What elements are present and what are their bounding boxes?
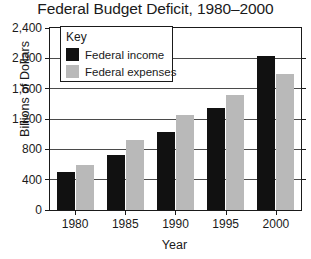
x-tick-mark — [226, 210, 227, 215]
bar-1990-expenses — [176, 115, 194, 210]
x-tick-mark — [75, 210, 76, 215]
legend-swatch-icon-expenses — [66, 65, 79, 78]
chart-title: Federal Budget Deficit, 1980–2000 — [0, 0, 311, 18]
legend-swatch-icon-income — [66, 48, 79, 61]
x-tick-label-1995: 1995 — [201, 217, 251, 231]
x-tick-mark — [125, 210, 126, 215]
y-tick-mark-right — [301, 149, 306, 150]
y-tick-label: 800 — [22, 142, 42, 156]
legend-item-federal-expenses: Federal expenses — [66, 63, 172, 80]
y-tick-mark-right — [301, 119, 306, 120]
bar-1995-expenses — [226, 95, 244, 210]
x-axis-label: Year — [46, 238, 303, 252]
y-tick-label: 1,200 — [12, 112, 42, 126]
x-tick-mark — [276, 210, 277, 215]
y-tick-mark-right — [301, 58, 306, 59]
bar-1995-income — [207, 108, 225, 210]
legend-title: Key — [66, 30, 172, 45]
x-tick-mark — [175, 210, 176, 215]
x-tick-label-1990: 1990 — [150, 217, 200, 231]
y-tick-label: 0 — [35, 203, 42, 217]
bar-1980-expenses — [76, 165, 94, 211]
y-tick-label: 2,000 — [12, 51, 42, 65]
bar-1985-income — [107, 155, 125, 210]
legend-label-expenses: Federal expenses — [85, 66, 176, 78]
y-tick-mark-right — [301, 179, 306, 180]
legend-item-federal-income: Federal income — [66, 46, 172, 63]
bar-1990-income — [157, 132, 175, 210]
bar-1980-income — [57, 172, 75, 210]
y-tick-label: 1,600 — [12, 82, 42, 96]
bar-group: 1995 — [201, 28, 251, 210]
x-tick-label-1980: 1980 — [50, 217, 100, 231]
y-tick-label: 2,400 — [12, 21, 42, 35]
x-tick-label-2000: 2000 — [251, 217, 301, 231]
bar-2000-expenses — [276, 74, 294, 211]
bar-1985-expenses — [126, 140, 144, 210]
legend-label-income: Federal income — [85, 49, 164, 61]
x-tick-label-1985: 1985 — [100, 217, 150, 231]
bar-group: 2000 — [251, 28, 301, 210]
y-tick-mark-right — [301, 88, 306, 89]
chart-figure: Federal Budget Deficit, 1980–2000 Billio… — [0, 0, 311, 259]
chart-legend: Key Federal income Federal expenses — [60, 26, 173, 82]
y-tick-label: 400 — [22, 173, 42, 187]
bar-2000-income — [257, 56, 275, 210]
